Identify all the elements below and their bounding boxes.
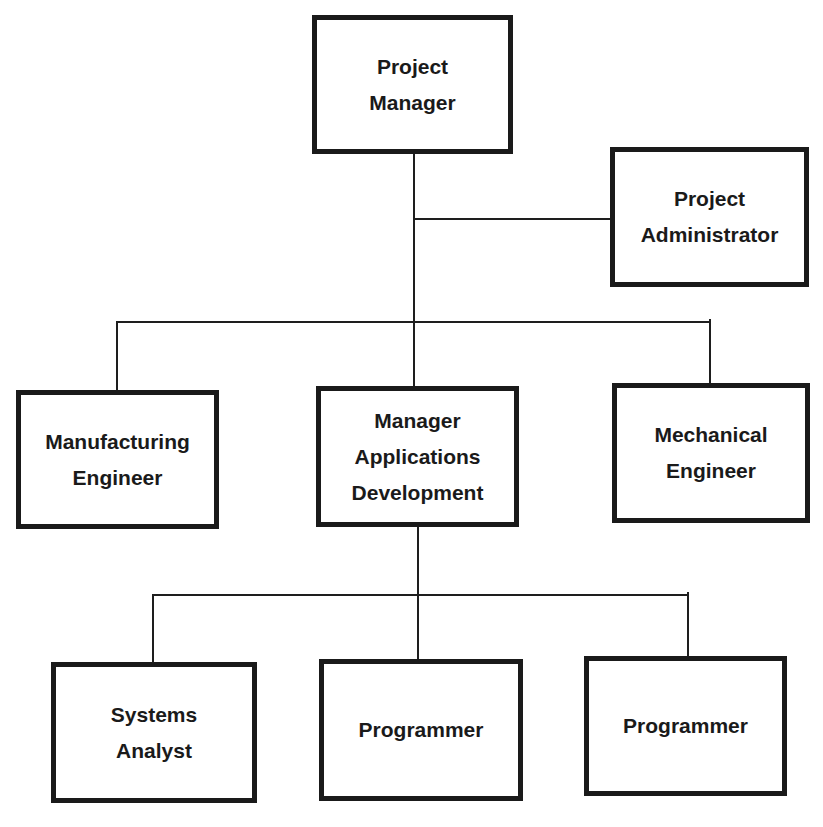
connector-to-programmer-2 <box>687 592 689 659</box>
node-mechanical-engineer: Mechanical Engineer <box>612 383 810 523</box>
node-label-line: Development <box>352 475 484 511</box>
connector-to-mechanical-engineer <box>709 319 711 385</box>
connector-pm-to-administrator <box>414 218 611 220</box>
node-programmer-2: Programmer <box>584 656 787 796</box>
node-project-administrator: Project Administrator <box>610 147 809 287</box>
node-label-line: Mechanical <box>654 417 767 453</box>
connector-to-systems-analyst <box>152 594 154 664</box>
connector-pm-trunk <box>413 150 415 390</box>
connector-mad-trunk <box>417 524 419 662</box>
node-systems-analyst: Systems Analyst <box>51 662 257 803</box>
node-manager-applications-development: Manager Applications Development <box>316 386 519 527</box>
node-label-line: Manufacturing <box>45 424 190 460</box>
node-label-line: Engineer <box>654 453 767 489</box>
node-programmer-1: Programmer <box>319 659 523 801</box>
node-manufacturing-engineer: Manufacturing Engineer <box>16 390 219 529</box>
node-label-line: Project <box>369 49 455 85</box>
node-label-line: Manager <box>369 85 455 121</box>
connector-to-manufacturing-engineer <box>116 321 118 392</box>
node-label-line: Systems <box>111 697 197 733</box>
node-label-line: Programmer <box>359 712 484 748</box>
node-label-line: Analyst <box>111 733 197 769</box>
node-label-line: Administrator <box>641 217 779 253</box>
connector-tier3-horizontal <box>152 594 689 596</box>
node-label-line: Project <box>641 181 779 217</box>
node-label-line: Programmer <box>623 708 748 744</box>
node-label-line: Manager <box>352 403 484 439</box>
node-project-manager: Project Manager <box>312 15 513 154</box>
connector-tier2-horizontal <box>116 321 711 323</box>
node-label-line: Engineer <box>45 460 190 496</box>
node-label-line: Applications <box>352 439 484 475</box>
